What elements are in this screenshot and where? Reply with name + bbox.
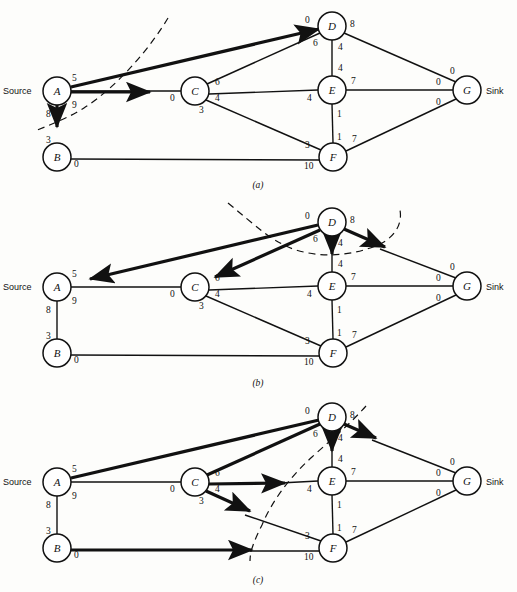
node-B-label: B bbox=[54, 542, 61, 554]
label-F-G-far: 0 bbox=[436, 97, 441, 107]
label-E-F-far: 1 bbox=[337, 523, 342, 533]
node-F-label: F bbox=[329, 151, 337, 163]
edge-C-E-thin bbox=[280, 481, 318, 483]
label-D-E-near: 4 bbox=[338, 433, 343, 443]
node-E-label: E bbox=[328, 280, 336, 292]
label-A-B-near: 8 bbox=[46, 305, 51, 315]
edge-E-F bbox=[332, 104, 333, 143]
label-A-C-far: 0 bbox=[170, 93, 175, 103]
label-C-F-near: 3 bbox=[199, 105, 204, 115]
label-A-C-near: 9 bbox=[72, 100, 77, 110]
label-D-G-near: 8 bbox=[350, 215, 355, 225]
node-D-label: D bbox=[327, 411, 336, 423]
label-D-E-near: 4 bbox=[338, 42, 343, 52]
label-A-C-far: 0 bbox=[170, 484, 175, 494]
label-E-F-near: 1 bbox=[337, 500, 342, 510]
label-C-F-near: 3 bbox=[199, 496, 204, 506]
label-E-F-far: 1 bbox=[337, 328, 342, 338]
edge-D-G-thin bbox=[372, 440, 456, 473]
label-D-E-far: 4 bbox=[338, 63, 343, 73]
label-A-D-far: 0 bbox=[305, 406, 310, 416]
label-B-F-far: 10 bbox=[304, 357, 314, 367]
node-A-label: A bbox=[53, 476, 61, 488]
label-A-D-far: 0 bbox=[305, 211, 310, 221]
node-D-label: D bbox=[327, 216, 336, 228]
label-C-D-near: 6 bbox=[215, 468, 220, 478]
label-C-F-near: 3 bbox=[199, 301, 204, 311]
label-A-B-far: 3 bbox=[46, 331, 51, 341]
label-C-F-far: 3 bbox=[305, 336, 310, 346]
edge-C-F bbox=[206, 296, 321, 346]
label-D-E-far: 4 bbox=[338, 454, 343, 464]
label-D-G-far: 0 bbox=[450, 457, 455, 467]
node-G-label: G bbox=[463, 475, 471, 487]
label-B-F-far: 10 bbox=[304, 161, 314, 171]
label-A-D-near: 5 bbox=[72, 464, 77, 474]
node-A-label: A bbox=[53, 281, 61, 293]
label-A-B-far: 3 bbox=[46, 135, 51, 145]
edge-B-F bbox=[71, 355, 319, 356]
label-C-E-far: 4 bbox=[307, 484, 312, 494]
label-F-G-near: 7 bbox=[352, 525, 357, 535]
label-E-F-near: 1 bbox=[337, 305, 342, 315]
label-E-G-near: 7 bbox=[351, 76, 356, 86]
label-C-D-near: 6 bbox=[215, 77, 220, 87]
node-C-label: C bbox=[191, 281, 199, 293]
label-C-E-far: 4 bbox=[307, 93, 312, 103]
panel-b-caption: (b) bbox=[252, 378, 263, 389]
label-C-D-far: 6 bbox=[313, 234, 318, 244]
sink-label: Sink bbox=[486, 477, 504, 487]
label-D-G-far: 0 bbox=[450, 262, 455, 272]
node-F-label: F bbox=[329, 347, 337, 359]
panel-c-caption: (c) bbox=[253, 575, 264, 586]
label-C-E-near: 4 bbox=[215, 484, 220, 494]
edge-C-F bbox=[206, 100, 321, 150]
panel-c: A B C D E F G Source Sink 5 9 8 3 0 0 10… bbox=[0, 391, 517, 588]
label-F-G-far: 0 bbox=[436, 488, 441, 498]
edge-D-G-thin bbox=[380, 249, 456, 278]
source-label: Source bbox=[3, 282, 32, 292]
label-D-E-near: 4 bbox=[338, 238, 343, 248]
label-A-B-far: 3 bbox=[46, 526, 51, 536]
node-B-label: B bbox=[54, 347, 61, 359]
figure-page: A B C D E F G Source Sink 5 9 8 3 0 0 10… bbox=[0, 0, 517, 592]
node-D-label: D bbox=[327, 20, 336, 32]
node-B-label: B bbox=[54, 151, 61, 163]
node-C-label: C bbox=[191, 476, 199, 488]
label-E-G-far: 0 bbox=[436, 273, 441, 283]
label-C-D-far: 6 bbox=[313, 38, 318, 48]
label-A-B-near: 8 bbox=[46, 500, 51, 510]
panel-a: A B C D E F G Source Sink 5 9 8 3 0 0 10… bbox=[0, 0, 517, 197]
edge-C-E bbox=[209, 286, 318, 290]
node-E-label: E bbox=[328, 84, 336, 96]
label-C-D-far: 6 bbox=[313, 429, 318, 439]
label-B-F-far: 10 bbox=[304, 552, 314, 562]
label-E-F-far: 1 bbox=[337, 132, 342, 142]
label-C-E-near: 4 bbox=[215, 93, 220, 103]
cut-curve-a bbox=[35, 18, 168, 131]
sink-label: Sink bbox=[486, 86, 504, 96]
label-A-D-near: 5 bbox=[72, 73, 77, 83]
label-B-F-near: 0 bbox=[74, 159, 79, 169]
label-F-G-near: 7 bbox=[352, 330, 357, 340]
panel-b: A B C D E F G Source Sink 5 9 8 3 0 0 10… bbox=[0, 196, 517, 393]
edge-E-F bbox=[332, 495, 333, 534]
label-B-F-near: 0 bbox=[74, 355, 79, 365]
edge-B-F bbox=[71, 159, 319, 160]
label-E-G-far: 0 bbox=[436, 468, 441, 478]
edge-D-G-bold bbox=[344, 424, 376, 438]
label-C-F-far: 3 bbox=[305, 531, 310, 541]
sink-label: Sink bbox=[486, 282, 504, 292]
edge-C-E-bold bbox=[209, 483, 285, 484]
node-E-label: E bbox=[328, 475, 336, 487]
node-G-label: G bbox=[463, 280, 471, 292]
label-E-G-far: 0 bbox=[436, 77, 441, 87]
node-G-label: G bbox=[463, 84, 471, 96]
source-label: Source bbox=[3, 86, 32, 96]
edge-E-F bbox=[332, 300, 333, 339]
node-A-label: A bbox=[53, 85, 61, 97]
label-D-G-far: 0 bbox=[450, 66, 455, 76]
cut-curve-b bbox=[228, 203, 400, 255]
label-A-C-near: 9 bbox=[72, 296, 77, 306]
label-D-E-far: 4 bbox=[338, 259, 343, 269]
